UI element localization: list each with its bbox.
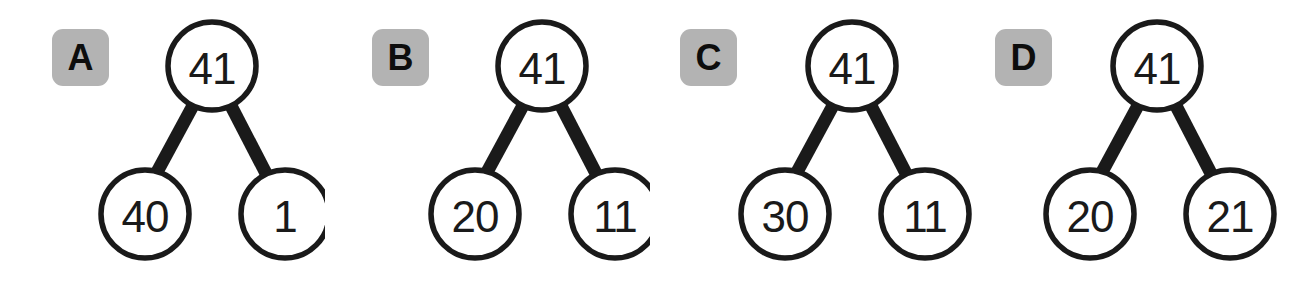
node-right-child-value: 11 bbox=[903, 192, 947, 241]
tree-diagram-b: 41 20 11 bbox=[325, 0, 650, 284]
tree-diagram-c: 41 30 11 bbox=[650, 0, 975, 284]
figure-root: A 41 40 1 B 41 20 11 C bbox=[0, 0, 1300, 284]
panel-c: C 41 30 11 bbox=[650, 0, 975, 284]
node-left-child-value: 40 bbox=[122, 192, 169, 241]
node-root-value: 41 bbox=[189, 44, 236, 93]
panel-a: A 41 40 1 bbox=[0, 0, 325, 284]
node-root-value: 41 bbox=[1134, 44, 1181, 93]
node-left-child-value: 20 bbox=[1067, 192, 1114, 241]
node-right-child-value: 21 bbox=[1207, 192, 1254, 241]
node-root-value: 41 bbox=[519, 44, 566, 93]
node-left-child-value: 20 bbox=[452, 192, 499, 241]
node-left-child-value: 30 bbox=[762, 192, 809, 241]
panel-b: B 41 20 11 bbox=[325, 0, 650, 284]
node-right-child-value: 11 bbox=[593, 192, 637, 241]
node-root-value: 41 bbox=[829, 44, 876, 93]
panel-d: D 41 20 21 bbox=[975, 0, 1300, 284]
node-right-child-value: 1 bbox=[273, 192, 296, 241]
tree-diagram-d: 41 20 21 bbox=[975, 0, 1300, 284]
tree-diagram-a: 41 40 1 bbox=[0, 0, 325, 284]
